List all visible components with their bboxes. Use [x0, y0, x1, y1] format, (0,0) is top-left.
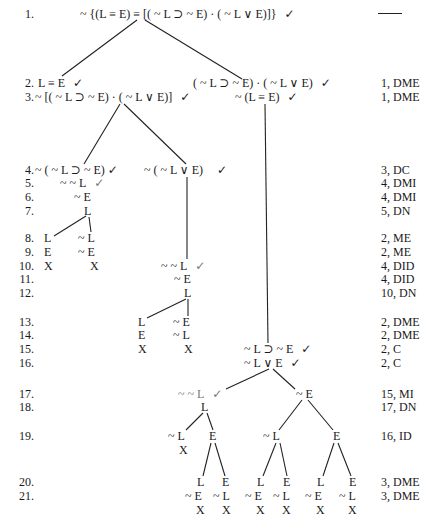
- justification: 4, DID: [381, 259, 414, 273]
- check-icon: ✓: [73, 76, 83, 90]
- formula: ~ E: [245, 489, 262, 503]
- justification: 1, DME: [381, 76, 420, 90]
- check-icon: ✓: [217, 163, 227, 177]
- justification: 2, DME: [381, 328, 420, 342]
- formula: ~ L: [173, 328, 190, 342]
- formula: ~ L: [263, 429, 280, 443]
- check-icon: ✓: [94, 176, 104, 190]
- closed-branch-x: X: [196, 503, 205, 517]
- closed-branch-x: X: [256, 503, 265, 517]
- justification: 4, DMI: [381, 176, 416, 190]
- check-icon: ✓: [284, 7, 294, 21]
- formula: L: [201, 400, 208, 414]
- closed-branch-x: X: [282, 503, 291, 517]
- formula: ~ [( ~ L ⊃ ~ E) · ( ~ L ∨ E)]✓: [35, 90, 190, 104]
- line-number: 13.: [14, 315, 34, 329]
- formula: ~ L: [168, 429, 185, 443]
- formula: ~ E: [305, 489, 322, 503]
- formula: ~ E: [173, 315, 190, 329]
- formula: L: [44, 231, 51, 245]
- justification: 2, C: [381, 356, 401, 370]
- formula: ~ L: [213, 489, 230, 503]
- line-number: 16.: [14, 356, 34, 370]
- justification: 10, DN: [381, 286, 416, 300]
- formula: ~ ~ L✓: [161, 259, 205, 273]
- formula: ~ E: [185, 489, 202, 503]
- formula: ~ L: [273, 489, 290, 503]
- closed-branch-x: X: [179, 443, 188, 457]
- no-justification-dash: [378, 13, 402, 14]
- line-number: 18.: [14, 400, 34, 414]
- formula: ~ E: [174, 272, 191, 286]
- line-number: 11.: [14, 272, 34, 286]
- line-number: 6.: [14, 190, 34, 204]
- formula: ~ ~ L✓: [60, 176, 104, 190]
- line-number: 15.: [14, 342, 34, 356]
- justification: 16, ID: [381, 429, 412, 443]
- check-icon: ✓: [108, 163, 118, 177]
- formula: ~ L: [339, 489, 356, 503]
- formula: L: [138, 315, 145, 329]
- line-number: 4.: [14, 163, 34, 177]
- formula: E: [283, 475, 290, 489]
- formula-root: ~ {(L ≡ E) ≡ [( ~ L ⊃ ~ E) · ( ~ L ∨ E)]…: [80, 7, 295, 21]
- line-number: 7.: [14, 204, 34, 218]
- closed-branch-x: X: [184, 342, 193, 356]
- justification: 2, C: [381, 342, 401, 356]
- formula: ( ~ L ⊃ ~ E) · ( ~ L ∨ E)✓: [193, 76, 331, 90]
- formula: E: [349, 475, 356, 489]
- formula: E: [222, 475, 229, 489]
- formula: ~ (L ≡ E)✓: [235, 90, 298, 104]
- formula: L: [257, 475, 264, 489]
- formula: E: [333, 429, 340, 443]
- formula: ~ E: [78, 245, 95, 259]
- check-icon: ✓: [291, 356, 301, 370]
- justification: 3, DC: [381, 163, 410, 177]
- line-number: 17.: [14, 387, 34, 401]
- formula: ~ E: [296, 387, 313, 401]
- formula: L: [184, 286, 191, 300]
- justification: 3, DME: [381, 489, 420, 503]
- line-number: 5.: [14, 176, 34, 190]
- formula: ~ ( ~ L ⊃ ~ E)✓: [35, 163, 118, 177]
- check-icon: ✓: [321, 76, 331, 90]
- line-number: 21.: [14, 489, 34, 503]
- formula: ~ ( ~ L ∨ E)✓: [144, 163, 227, 177]
- check-icon: ✓: [195, 259, 205, 273]
- check-icon: ✓: [301, 342, 311, 356]
- line-number: 12.: [14, 286, 34, 300]
- justification: 15, MI: [381, 387, 414, 401]
- closed-branch-x: X: [316, 503, 325, 517]
- justification: 3, DME: [381, 475, 420, 489]
- justification: 2, ME: [381, 231, 411, 245]
- closed-branch-x: X: [222, 503, 231, 517]
- justification: 4, DID: [381, 272, 414, 286]
- justification: 2, ME: [381, 245, 411, 259]
- closed-branch-x: X: [348, 503, 357, 517]
- check-icon: ✓: [287, 90, 297, 104]
- formula: L: [84, 204, 91, 218]
- justification: 4, DMI: [381, 190, 416, 204]
- line-number: 10.: [14, 259, 34, 273]
- formula: ~ ~ L✓: [178, 387, 222, 401]
- formula: L ≡ E✓: [38, 76, 83, 90]
- justification: 2, DME: [381, 315, 420, 329]
- formula: E: [209, 429, 216, 443]
- justification: 17, DN: [381, 400, 416, 414]
- line-number: 8.: [14, 231, 34, 245]
- formula: L: [197, 475, 204, 489]
- line-number: 2.: [14, 76, 34, 90]
- line-number: 1.: [14, 7, 34, 21]
- line-number: 14.: [14, 328, 34, 342]
- formula: ~ L ⊃ ~ E✓: [244, 342, 311, 356]
- formula: L: [317, 475, 324, 489]
- line-number: 9.: [14, 245, 34, 259]
- closed-branch-x: X: [138, 342, 147, 356]
- closed-branch-x: X: [90, 259, 99, 273]
- formula: E: [44, 245, 51, 259]
- line-number: 3.: [14, 90, 34, 104]
- formula: ~ L: [78, 231, 95, 245]
- check-icon: ✓: [180, 90, 190, 104]
- formula: ~ E: [74, 190, 91, 204]
- formula: ~ L ∨ E✓: [244, 356, 301, 370]
